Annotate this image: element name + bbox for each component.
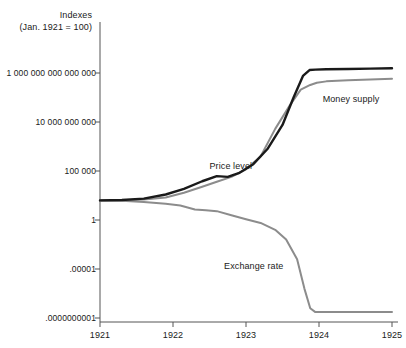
chart-container: Indexes (Jan. 1921 = 100) 1 000 000 000 …: [0, 0, 406, 348]
chart-plot-area: [0, 0, 406, 348]
series-line-exchange-rate: [100, 200, 392, 312]
series-line-price-level: [100, 68, 392, 200]
series-lines: [100, 68, 392, 312]
series-line-money-supply: [100, 79, 392, 201]
axis-lines: [100, 22, 398, 322]
